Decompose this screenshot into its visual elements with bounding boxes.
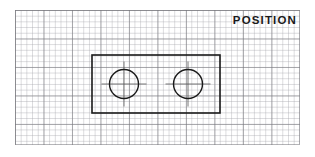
hole-centerlines xyxy=(102,62,211,107)
position-title-label: POSITION xyxy=(233,15,297,27)
drawing-canvas: POSITION xyxy=(0,0,315,157)
